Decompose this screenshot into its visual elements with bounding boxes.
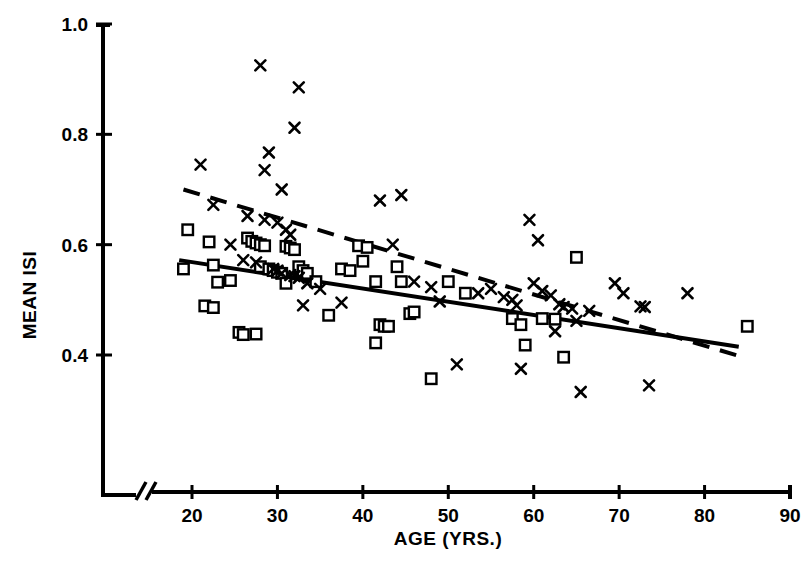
data-point-square bbox=[358, 256, 369, 267]
data-point-cross bbox=[524, 215, 534, 225]
data-point-cross bbox=[452, 359, 462, 369]
data-point-cross bbox=[196, 160, 206, 170]
data-point-square bbox=[392, 261, 403, 272]
data-point-square bbox=[208, 302, 219, 313]
data-point-cross bbox=[260, 215, 270, 225]
data-point-cross bbox=[409, 277, 419, 287]
data-point-cross bbox=[260, 165, 270, 175]
data-point-cross bbox=[375, 196, 385, 206]
data-point-cross bbox=[486, 284, 496, 294]
x-axis-title: AGE (YRS.) bbox=[394, 528, 502, 549]
data-point-square bbox=[204, 237, 215, 248]
data-point-square bbox=[370, 338, 381, 349]
data-point-square bbox=[558, 352, 569, 363]
data-point-cross bbox=[225, 240, 235, 250]
data-point-square bbox=[212, 277, 223, 288]
data-point-cross bbox=[243, 211, 253, 221]
data-point-cross bbox=[388, 240, 398, 250]
data-point-square bbox=[537, 313, 548, 324]
data-point-cross bbox=[277, 185, 287, 195]
axis-break-slash-1 bbox=[136, 482, 146, 500]
data-point-cross bbox=[290, 123, 300, 133]
x-tick-label: 70 bbox=[609, 505, 630, 526]
data-point-cross bbox=[264, 148, 274, 158]
data-point-cross bbox=[512, 300, 522, 310]
data-point-square bbox=[323, 310, 334, 321]
data-point-square bbox=[345, 265, 356, 276]
data-point-cross bbox=[576, 387, 586, 397]
data-point-square bbox=[742, 321, 753, 332]
data-point-square bbox=[362, 242, 373, 253]
data-point-cross bbox=[396, 190, 406, 200]
data-point-square bbox=[383, 321, 394, 332]
data-point-cross bbox=[610, 278, 620, 288]
data-point-square bbox=[409, 307, 420, 318]
data-point-cross bbox=[682, 288, 692, 298]
x-tick-label: 30 bbox=[267, 505, 288, 526]
data-point-cross bbox=[294, 82, 304, 92]
data-point-square bbox=[550, 314, 561, 325]
chart-container: 0.40.60.81.0 2030405060708090 AGE (YRS.)… bbox=[0, 0, 808, 567]
data-point-square bbox=[289, 244, 300, 255]
data-point-cross bbox=[208, 200, 218, 210]
data-point-cross bbox=[533, 235, 543, 245]
data-point-square bbox=[182, 225, 193, 236]
x-tick-label: 40 bbox=[352, 505, 373, 526]
data-point-square bbox=[370, 276, 381, 287]
data-point-square bbox=[460, 288, 471, 299]
y-tick-label: 0.4 bbox=[62, 345, 89, 366]
data-point-square bbox=[520, 340, 531, 351]
data-point-square bbox=[396, 276, 407, 287]
y-tick-label: 0.6 bbox=[62, 235, 88, 256]
x-tick-label: 50 bbox=[438, 505, 459, 526]
data-point-square bbox=[238, 329, 249, 340]
data-point-cross bbox=[618, 288, 628, 298]
data-point-square bbox=[208, 260, 219, 271]
data-point-cross bbox=[473, 288, 483, 298]
data-point-cross bbox=[238, 255, 248, 265]
x-tick-label: 20 bbox=[181, 505, 202, 526]
data-point-square bbox=[259, 241, 270, 252]
data-point-cross bbox=[426, 282, 436, 292]
data-point-square bbox=[443, 276, 454, 287]
x-tick-label: 90 bbox=[779, 505, 800, 526]
x-tick-label: 60 bbox=[523, 505, 544, 526]
data-point-cross bbox=[516, 364, 526, 374]
x-tick-label: 80 bbox=[694, 505, 715, 526]
series-crosses bbox=[196, 60, 693, 397]
data-point-square bbox=[225, 275, 236, 286]
y-tick-label: 1.0 bbox=[62, 14, 88, 35]
data-point-square bbox=[516, 319, 527, 330]
y-axis-title: MEAN ISI bbox=[19, 251, 40, 339]
data-point-cross bbox=[255, 60, 265, 70]
data-point-square bbox=[571, 252, 582, 262]
data-point-square bbox=[251, 329, 261, 340]
data-point-cross bbox=[550, 326, 560, 336]
data-point-cross bbox=[644, 380, 654, 390]
data-point-cross bbox=[298, 300, 308, 310]
data-point-cross bbox=[285, 230, 295, 240]
data-point-square bbox=[178, 264, 189, 275]
scatter-plot: 0.40.60.81.0 2030405060708090 AGE (YRS.)… bbox=[0, 0, 808, 567]
data-point-square bbox=[426, 373, 437, 384]
data-point-cross bbox=[337, 298, 347, 308]
y-tick-label: 0.8 bbox=[62, 124, 88, 145]
